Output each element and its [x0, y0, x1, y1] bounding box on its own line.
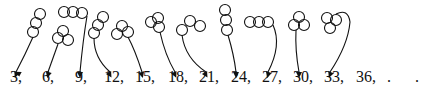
- sequence-number: 3,: [10, 68, 22, 86]
- cluster-30: [289, 12, 310, 73]
- cluster-18: [146, 13, 176, 73]
- sequence-number: 30,: [293, 68, 313, 86]
- sequence-number: 18,: [168, 68, 188, 86]
- sequence-number: 36,: [356, 68, 376, 86]
- ellipsis: . . .: [387, 68, 430, 95]
- cluster-33: [322, 12, 351, 72]
- sequence-number: 15,: [135, 68, 155, 86]
- sequence-number: 24,: [231, 68, 251, 86]
- cluster-15: [112, 21, 143, 73]
- sequence-number: 12,: [104, 68, 124, 86]
- sequence-number: 33,: [324, 68, 344, 86]
- cluster-12: [89, 12, 111, 73]
- sequence-number: 6,: [42, 68, 54, 86]
- sequence-number: 27,: [262, 68, 282, 86]
- cluster-24: [220, 5, 237, 73]
- cluster-3: [16, 9, 46, 73]
- sequence-number: 21,: [199, 68, 219, 86]
- sequence-number: 9,: [75, 68, 87, 86]
- cluster-21: [177, 16, 207, 73]
- cluster-6: [48, 26, 74, 73]
- cluster-27: [245, 17, 277, 73]
